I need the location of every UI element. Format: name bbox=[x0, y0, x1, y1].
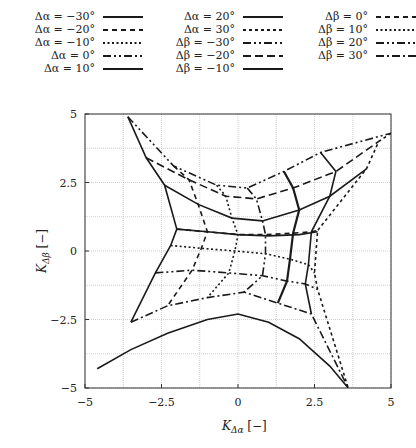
x-tick-label: 0 bbox=[235, 396, 242, 409]
beta-curve bbox=[131, 292, 348, 388]
y-axis-label: KΔβ [−] bbox=[35, 229, 51, 274]
beta-curve bbox=[171, 246, 315, 273]
curves bbox=[97, 117, 391, 388]
x-tick-label: 2.5 bbox=[306, 396, 324, 409]
alpha-curve bbox=[128, 117, 177, 323]
x-axis-label: KΔα [−] bbox=[221, 419, 267, 435]
x-tick-label: −2.5 bbox=[148, 396, 175, 409]
boundary-curve-bottom bbox=[97, 314, 348, 388]
x-tick-label: −5 bbox=[77, 396, 93, 409]
plot-area: −5−5−2.5−2.5002.52.555KΔα [−]KΔβ [−] bbox=[0, 0, 416, 448]
y-tick-label: −2.5 bbox=[50, 314, 77, 327]
y-tick-label: −5 bbox=[61, 382, 77, 395]
beta-curve bbox=[128, 117, 391, 188]
beta-curve bbox=[177, 229, 318, 235]
beta-curve bbox=[155, 270, 317, 289]
alpha-curve bbox=[207, 185, 238, 297]
y-tick-label: 2.5 bbox=[60, 177, 78, 190]
x-tick-label: 5 bbox=[388, 396, 395, 409]
y-tick-label: 0 bbox=[70, 245, 77, 258]
y-tick-label: 5 bbox=[70, 108, 77, 121]
